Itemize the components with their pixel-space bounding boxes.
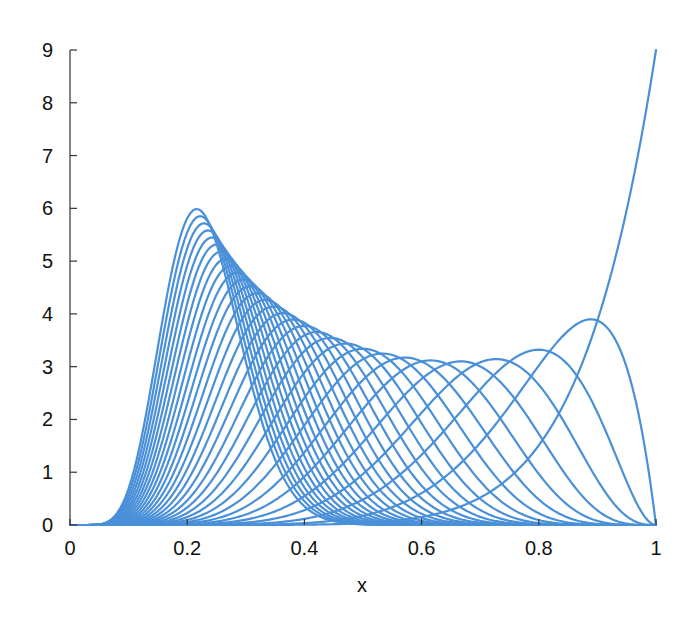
y-tick-label: 3	[42, 356, 53, 378]
y-tick-label: 6	[42, 197, 53, 219]
x-axis-label: x	[357, 574, 367, 596]
x-tick-label: 1	[650, 537, 661, 559]
y-tick-label: 0	[42, 514, 53, 536]
density-curve-beta-9-19	[70, 286, 656, 525]
x-tick-label: 0.8	[525, 537, 553, 559]
y-axis-ticks: 0123456789	[42, 39, 77, 536]
density-curves	[70, 50, 656, 525]
x-tick-label: 0.4	[290, 537, 318, 559]
x-tick-label: 0.2	[173, 537, 201, 559]
y-tick-label: 4	[42, 303, 53, 325]
density-curve-beta-9-3	[70, 350, 656, 525]
y-tick-label: 7	[42, 145, 53, 167]
y-tick-label: 8	[42, 92, 53, 114]
x-tick-label: 0	[64, 537, 75, 559]
y-tick-label: 5	[42, 250, 53, 272]
chart: 0123456789 00.20.40.60.81 x	[0, 0, 699, 628]
x-tick-label: 0.6	[408, 537, 436, 559]
y-tick-label: 9	[42, 39, 53, 61]
y-tick-label: 1	[42, 461, 53, 483]
y-tick-label: 2	[42, 408, 53, 430]
